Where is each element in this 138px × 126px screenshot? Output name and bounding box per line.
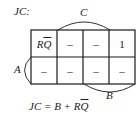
cell-r0c0-qbar: Q [43,38,51,50]
label-b: B [106,89,113,101]
label-a: A [14,63,21,75]
equation-qbar: Q [81,100,89,112]
cell-r1c0: – [31,57,57,84]
cell-r0c0: RQ [31,30,57,57]
cell-r1c1: – [57,57,83,84]
equation: JC = B + RQ [29,100,88,112]
cell-r0c1: – [57,30,83,57]
cell-r0c2: – [83,30,109,57]
equation-lhs: JC = B + R [29,100,81,112]
cell-r1c2: – [83,57,109,84]
cell-r1c3: – [109,57,135,84]
label-c: C [80,6,87,18]
cell-r0c0-r: R [37,38,44,50]
cell-r0c3: 1 [109,30,135,57]
map-title: JC: [14,5,30,17]
c-arc [58,22,110,30]
